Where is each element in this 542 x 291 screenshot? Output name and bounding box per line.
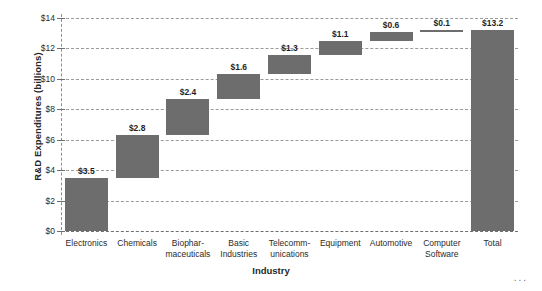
y-tick-label: $12 [41,43,55,53]
x-cat-label-line: unications [255,249,324,260]
bar-electronics[interactable] [65,178,108,231]
bar-telecommunications[interactable] [268,55,311,75]
bar-equipment[interactable] [319,41,362,55]
bar-computersoftware[interactable] [420,30,463,32]
waterfall-chart: R&D Expenditures (billions) $0$2$4$6$8$1… [0,0,542,291]
y-tick-mark [57,109,65,110]
y-tick-label: $6 [46,135,55,145]
x-cat-label-line: Software [407,249,476,260]
bar-total[interactable] [471,30,514,231]
corner-ellipsis: ... [514,272,528,283]
bar-value-label: $2.8 [108,123,167,133]
bar-value-label: $3.5 [57,166,116,176]
bar-automotive[interactable] [370,32,413,41]
gridline-0 [61,231,518,232]
bar-basicindustries[interactable] [217,74,260,98]
y-tick-mark [57,140,65,141]
bar-value-label: $1.3 [260,43,319,53]
y-tick-mark [57,79,65,80]
x-axis-label-total: Total [458,238,527,249]
x-axis-title: Industry [0,265,542,276]
plot-area: $0$2$4$6$8$10$12$14$3.5$2.8$2.4$1.6$1.3$… [61,18,518,231]
gridline-10 [61,79,518,80]
bar-value-label: $2.4 [158,87,217,97]
bar-value-label: $1.1 [311,29,370,39]
x-cat-label-line: Total [458,238,527,249]
y-tick-mark [57,231,65,232]
y-tick-label: $2 [46,196,55,206]
bar-biopharmaceuticals[interactable] [166,99,209,136]
y-tick-label: $0 [46,226,55,236]
gridline-8 [61,109,518,110]
y-tick-mark [57,48,65,49]
bar-chemicals[interactable] [116,135,159,178]
y-tick-label: $4 [46,165,55,175]
y-tick-mark [57,18,65,19]
bar-value-label: $13.2 [463,18,522,28]
y-tick-label: $8 [46,104,55,114]
bar-value-label: $1.6 [209,62,268,72]
y-tick-label: $14 [41,13,55,23]
gridline-2 [61,201,518,202]
y-tick-mark [57,201,65,202]
y-tick-label: $10 [41,74,55,84]
